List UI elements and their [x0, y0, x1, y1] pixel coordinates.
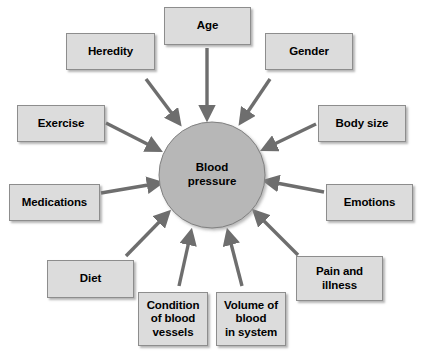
- arrow-pain-illness-to-hub: [255, 212, 298, 255]
- factor-node-diet[interactable]: Diet: [47, 260, 134, 298]
- factor-node-label: Pain and illness: [316, 265, 363, 292]
- factor-node-medications[interactable]: Medications: [9, 184, 100, 221]
- factor-node-pain-illness[interactable]: Pain and illness: [296, 256, 383, 301]
- factor-node-condition-blood-vessels[interactable]: Condition of blood vessels: [138, 292, 208, 346]
- factor-node-gender[interactable]: Gender: [265, 33, 353, 70]
- factor-node-label: Emotions: [344, 196, 396, 210]
- arrow-volume-blood-in-system-to-hub: [228, 232, 242, 286]
- factor-node-exercise[interactable]: Exercise: [17, 105, 105, 142]
- factor-node-label: Medications: [22, 196, 87, 210]
- factor-node-label: Body size: [336, 117, 389, 131]
- factor-node-heredity[interactable]: Heredity: [66, 33, 155, 70]
- arrow-diet-to-hub: [126, 213, 168, 256]
- arrow-exercise-to-hub: [106, 123, 159, 150]
- arrow-heredity-to-hub: [146, 79, 179, 123]
- diagram-canvas: [0, 0, 421, 358]
- factor-node-emotions[interactable]: Emotions: [326, 184, 413, 221]
- factor-node-label: Heredity: [88, 45, 133, 59]
- factor-node-label: Age: [197, 19, 218, 33]
- blood-pressure-hub-circle: [159, 122, 265, 228]
- factor-node-label: Condition of blood vessels: [147, 299, 200, 340]
- factor-node-label: Gender: [289, 45, 329, 59]
- arrow-condition-blood-vessels-to-hub: [179, 232, 191, 286]
- factor-node-volume-blood-in-system[interactable]: Volume of blood in system: [216, 292, 286, 346]
- factor-node-label: Exercise: [38, 117, 85, 131]
- arrow-body-size-to-hub: [264, 124, 316, 149]
- arrow-emotions-to-hub: [266, 181, 324, 192]
- blood-pressure-factors-diagram: Blood pressure AgeHeredityGenderExercise…: [0, 0, 421, 358]
- factor-node-label: Diet: [80, 272, 101, 286]
- factor-node-age[interactable]: Age: [164, 7, 251, 45]
- arrow-gender-to-hub: [241, 79, 270, 122]
- factor-node-label: Volume of blood in system: [224, 299, 278, 340]
- factor-node-body-size[interactable]: Body size: [318, 105, 406, 142]
- arrow-medications-to-hub: [101, 183, 160, 193]
